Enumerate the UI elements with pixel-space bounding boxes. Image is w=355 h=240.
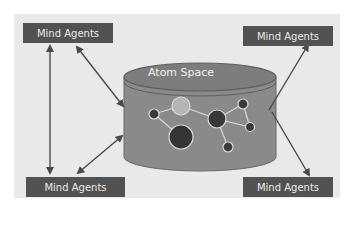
atom-space-label: Atom Space [148,66,214,79]
mind-agents-top-right: Mind Agents [243,26,333,46]
mind-agents-top-left: Mind Agents [23,23,113,43]
atom-node [169,125,193,149]
atom-node [208,110,226,128]
atom-node [149,109,159,119]
arrow-atomspace-bottomright [272,112,309,175]
atom-node [246,123,255,132]
arrow-bottomleft-atomspace [78,136,122,173]
atom-node [238,99,248,109]
mind-agents-bottom-left: Mind Agents [26,177,125,197]
arrow-topleft-atomspace [77,47,123,106]
mind-agents-bottom-right: Mind Agents [243,177,333,197]
atom-node-highlighted [172,97,190,115]
atom-space-cylinder [124,63,276,171]
atom-node [223,142,233,152]
